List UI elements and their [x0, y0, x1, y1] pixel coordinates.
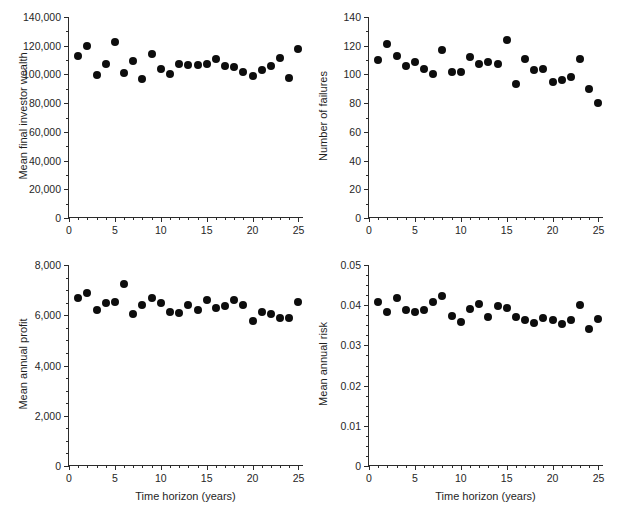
data-point — [157, 299, 165, 307]
data-point — [138, 301, 146, 309]
x-minor-tick — [479, 465, 480, 468]
y-minor-tick — [66, 428, 69, 429]
x-minor-tick — [78, 465, 79, 468]
x-minor-tick — [433, 217, 434, 220]
x-tick — [415, 465, 416, 470]
y-tick-label: 0.05 — [341, 259, 361, 271]
x-tick — [69, 217, 70, 222]
y-minor-tick — [366, 204, 369, 205]
y-tick — [364, 426, 369, 427]
x-minor-tick — [271, 465, 272, 468]
x-tick-label: 15 — [501, 224, 513, 236]
x-minor-tick — [78, 217, 79, 220]
y-tick — [64, 46, 69, 47]
y-tick-label: 0 — [355, 460, 361, 472]
x-minor-tick — [243, 465, 244, 468]
data-point — [494, 60, 502, 68]
x-tick — [507, 217, 508, 222]
y-tick — [364, 305, 369, 306]
data-point — [157, 65, 165, 73]
data-point — [512, 80, 520, 88]
data-point — [475, 60, 483, 68]
data-point — [166, 308, 174, 316]
x-minor-tick — [488, 217, 489, 220]
data-point — [258, 308, 266, 316]
x-minor-tick — [442, 465, 443, 468]
x-minor-tick — [452, 217, 453, 220]
y-minor-tick — [66, 453, 69, 454]
y-minor-tick — [366, 31, 369, 32]
x-minor-tick — [397, 217, 398, 220]
y-tick-label: 140,000 — [23, 11, 61, 23]
data-point — [585, 325, 593, 333]
y-minor-tick — [366, 406, 369, 407]
data-point — [294, 45, 302, 53]
data-point — [129, 310, 137, 318]
data-point — [393, 294, 401, 302]
y-tick-label: 80,000 — [29, 97, 61, 109]
data-point — [184, 301, 192, 309]
x-minor-tick — [188, 217, 189, 220]
data-point — [585, 85, 593, 93]
x-tick — [507, 465, 508, 470]
data-point — [466, 53, 474, 61]
y-tick-label: 2,000 — [35, 410, 61, 422]
x-minor-tick — [498, 465, 499, 468]
data-point — [93, 306, 101, 314]
y-tick-label: 0.02 — [341, 380, 361, 392]
data-point — [494, 302, 502, 310]
y-minor-tick — [66, 31, 69, 32]
data-point — [212, 304, 220, 312]
data-point — [194, 61, 202, 69]
x-minor-tick — [470, 217, 471, 220]
x-minor-tick — [397, 465, 398, 468]
y-tick-label: 100 — [343, 68, 361, 80]
x-tick — [115, 465, 116, 470]
data-point — [549, 316, 557, 324]
x-tick-label: 15 — [501, 472, 513, 484]
x-minor-tick — [271, 217, 272, 220]
y-tick — [64, 265, 69, 266]
x-tick-label: 25 — [293, 224, 305, 236]
x-minor-tick — [216, 217, 217, 220]
x-tick-label: 10 — [155, 224, 167, 236]
y-minor-tick — [366, 456, 369, 457]
y-tick — [364, 161, 369, 162]
panel-number-of-failures: 0204060801001201400510152025Number of fa… — [310, 0, 620, 254]
x-minor-tick — [580, 465, 581, 468]
y-tick — [64, 315, 69, 316]
x-minor-tick — [406, 465, 407, 468]
data-point — [530, 66, 538, 74]
x-minor-tick — [188, 465, 189, 468]
x-minor-tick — [198, 465, 199, 468]
y-minor-tick — [366, 89, 369, 90]
data-point — [521, 316, 529, 324]
x-tick — [253, 465, 254, 470]
x-minor-tick — [142, 465, 143, 468]
data-point — [457, 68, 465, 76]
data-point — [539, 314, 547, 322]
data-point — [175, 60, 183, 68]
x-minor-tick — [289, 217, 290, 220]
y-tick-label: 20,000 — [29, 183, 61, 195]
x-tick-label: 10 — [455, 472, 467, 484]
data-point — [267, 62, 275, 70]
x-tick — [298, 217, 299, 222]
data-point — [285, 74, 293, 82]
x-minor-tick — [87, 217, 88, 220]
y-minor-tick — [66, 290, 69, 291]
x-tick-label: 15 — [201, 224, 213, 236]
y-tick-label: 0.04 — [341, 299, 361, 311]
x-tick-label: 5 — [112, 224, 118, 236]
data-point — [249, 317, 257, 325]
x-tick — [598, 465, 599, 470]
data-point — [539, 65, 547, 73]
y-tick — [64, 161, 69, 162]
y-tick-label: 6,000 — [35, 309, 61, 321]
data-point — [102, 60, 110, 68]
x-tick-label: 0 — [66, 224, 72, 236]
y-tick-label: 8,000 — [35, 259, 61, 271]
y-minor-tick — [366, 416, 369, 417]
x-minor-tick — [87, 465, 88, 468]
data-point — [74, 294, 82, 302]
